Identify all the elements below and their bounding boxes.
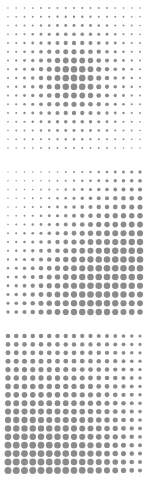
dot-marker bbox=[63, 49, 68, 54]
dot-marker bbox=[63, 291, 69, 297]
dot-marker bbox=[113, 196, 117, 200]
dot-marker bbox=[87, 256, 93, 262]
dot-marker bbox=[31, 232, 34, 235]
dot-marker bbox=[138, 468, 142, 472]
dot-marker bbox=[105, 334, 109, 338]
dot-marker bbox=[63, 300, 69, 306]
dot-marker bbox=[24, 189, 26, 191]
dot-marker bbox=[131, 77, 133, 79]
dot-marker bbox=[120, 291, 126, 297]
dot-marker bbox=[88, 392, 93, 397]
dot-marker bbox=[23, 258, 26, 261]
dot-marker bbox=[139, 112, 141, 114]
dot-marker bbox=[23, 42, 25, 44]
dot-marker bbox=[47, 84, 52, 89]
dot-marker bbox=[55, 49, 60, 54]
dot-marker bbox=[88, 409, 94, 415]
dot-marker bbox=[80, 222, 85, 227]
dot-marker bbox=[106, 147, 108, 149]
dot-marker bbox=[79, 66, 86, 73]
dot-marker bbox=[106, 129, 108, 131]
dot-marker bbox=[104, 417, 109, 422]
dot-marker bbox=[7, 7, 9, 9]
dot-marker bbox=[63, 66, 70, 73]
dot-marker bbox=[71, 434, 77, 440]
dot-marker bbox=[14, 301, 18, 305]
dot-matrix-panel-3 bbox=[0, 326, 150, 489]
dot-marker bbox=[46, 442, 53, 449]
dot-marker bbox=[130, 410, 134, 414]
dot-marker bbox=[24, 25, 26, 27]
dot-marker bbox=[113, 376, 117, 380]
dot-marker bbox=[88, 384, 93, 389]
dot-marker bbox=[104, 239, 110, 245]
dot-marker bbox=[105, 367, 110, 372]
dot-marker bbox=[105, 76, 109, 80]
dot-marker bbox=[130, 170, 133, 173]
dot-marker bbox=[80, 32, 84, 36]
dot-marker bbox=[7, 224, 9, 226]
dot-marker bbox=[122, 85, 125, 88]
dot-marker bbox=[30, 301, 35, 306]
dot-marker bbox=[22, 392, 28, 398]
dot-marker bbox=[46, 392, 52, 398]
dot-marker bbox=[14, 334, 19, 339]
dot-marker bbox=[112, 230, 118, 236]
dot-marker bbox=[131, 16, 133, 18]
dot-marker bbox=[138, 187, 142, 191]
dot-marker bbox=[113, 401, 118, 406]
dot-marker bbox=[63, 417, 69, 423]
dot-marker bbox=[39, 283, 44, 288]
dot-marker bbox=[79, 442, 85, 448]
dot-marker bbox=[129, 283, 135, 289]
dot-marker bbox=[113, 384, 118, 389]
dot-marker bbox=[5, 442, 12, 449]
dot-marker bbox=[79, 459, 86, 466]
dot-marker bbox=[88, 66, 94, 72]
dot-marker bbox=[55, 300, 61, 306]
dot-marker bbox=[131, 59, 133, 61]
dot-marker bbox=[89, 33, 92, 36]
dot-marker bbox=[47, 266, 52, 271]
dot-marker bbox=[88, 205, 92, 209]
dot-marker bbox=[55, 309, 61, 315]
dot-marker bbox=[22, 359, 27, 364]
dot-marker bbox=[96, 409, 101, 414]
dot-marker bbox=[79, 434, 85, 440]
dot-marker bbox=[47, 240, 51, 244]
dot-marker bbox=[38, 301, 43, 306]
dot-marker bbox=[139, 60, 141, 62]
dot-marker bbox=[55, 84, 61, 90]
dot-marker bbox=[15, 112, 17, 114]
dot-marker bbox=[96, 239, 102, 245]
dot-marker bbox=[87, 459, 93, 465]
dot-marker bbox=[81, 138, 83, 140]
dot-marker bbox=[98, 171, 101, 174]
dot-marker bbox=[72, 350, 77, 355]
dot-marker bbox=[56, 231, 60, 235]
dot-marker bbox=[55, 342, 60, 347]
dot-marker bbox=[106, 7, 108, 9]
dot-marker bbox=[39, 111, 42, 114]
dot-marker bbox=[114, 112, 117, 115]
dot-marker bbox=[54, 434, 60, 440]
dot-marker bbox=[88, 334, 92, 338]
dot-marker bbox=[15, 232, 17, 234]
dot-marker bbox=[96, 467, 102, 473]
dot-marker bbox=[113, 213, 118, 218]
dot-marker bbox=[32, 180, 34, 182]
dot-marker bbox=[22, 301, 26, 305]
dot-marker bbox=[131, 33, 133, 35]
dot-marker bbox=[123, 25, 125, 27]
dot-marker bbox=[63, 283, 69, 289]
dot-marker bbox=[122, 351, 126, 355]
dot-marker bbox=[114, 103, 117, 106]
dot-marker bbox=[139, 130, 141, 132]
dot-marker bbox=[138, 410, 142, 414]
dot-marker bbox=[96, 256, 102, 262]
dot-marker bbox=[130, 426, 134, 430]
dot-marker bbox=[114, 121, 116, 123]
dot-marker bbox=[15, 103, 17, 105]
dot-marker bbox=[32, 33, 34, 35]
dot-marker bbox=[123, 16, 125, 18]
